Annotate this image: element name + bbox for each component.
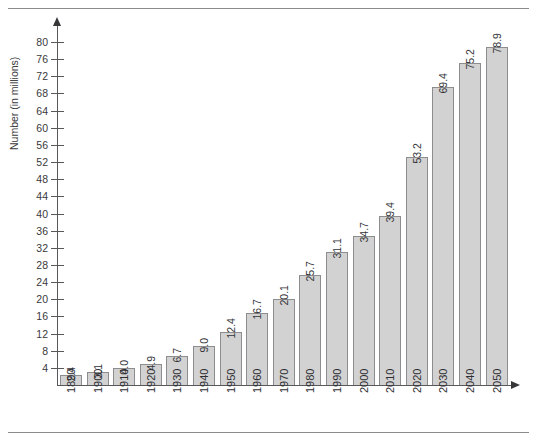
y-axis-tick-mark <box>51 59 64 60</box>
y-axis-tick-mark <box>51 282 64 283</box>
x-axis-category-label: 2030 <box>438 369 449 393</box>
y-axis-tick-label: 4 <box>8 363 48 374</box>
y-axis-tick-label: 72 <box>8 71 48 82</box>
x-axis-category-label: 2020 <box>412 369 423 393</box>
y-axis-tick-mark <box>51 42 64 43</box>
y-axis-tick-label: 76 <box>8 54 48 65</box>
y-axis-tick-mark <box>51 162 64 163</box>
x-axis-category-label: 1930 <box>172 369 183 393</box>
y-axis-tick-label: 20 <box>8 294 48 305</box>
bar <box>406 157 428 385</box>
y-axis-tick-mark <box>51 145 64 146</box>
y-axis-tick-mark <box>51 214 64 215</box>
bar-value-label: 34.7 <box>358 222 369 242</box>
page: Number (in millions) 4812162024283236404… <box>0 0 537 443</box>
y-axis-tick-mark <box>51 265 64 266</box>
bar <box>353 236 375 385</box>
y-axis-tick-label: 80 <box>8 37 48 48</box>
x-axis-category-label: 1980 <box>305 369 316 393</box>
bar-value-label: 75.2 <box>465 49 476 69</box>
y-axis-arrow-icon <box>53 17 61 26</box>
y-axis-tick-mark <box>51 93 64 94</box>
y-axis-tick-mark <box>51 368 64 369</box>
bar-value-label: 16.7 <box>252 299 263 319</box>
y-axis-tick-label: 12 <box>8 329 48 340</box>
y-axis-tick-label: 28 <box>8 260 48 271</box>
x-axis-category-label: 1890 <box>66 369 77 393</box>
y-axis-tick-label: 44 <box>8 191 48 202</box>
bar <box>459 63 481 385</box>
y-axis-tick-label: 48 <box>8 174 48 185</box>
x-axis-category-label: 2000 <box>359 369 370 393</box>
bar-value-label: 31.1 <box>332 238 343 258</box>
bar-value-label: 25.7 <box>305 261 316 281</box>
y-axis-tick-mark <box>51 351 64 352</box>
y-axis-tick-mark <box>51 179 64 180</box>
bar-value-label: 20.1 <box>278 285 289 305</box>
bar-value-label: 6.7 <box>172 348 183 363</box>
y-axis-tick-mark <box>51 111 64 112</box>
x-axis-category-label: 2040 <box>465 369 476 393</box>
bar-value-label: 69.4 <box>438 74 449 94</box>
y-axis-tick-mark <box>51 231 64 232</box>
bar <box>486 47 508 385</box>
y-axis-tick-mark <box>51 316 64 317</box>
x-axis-category-label: 1940 <box>199 369 210 393</box>
x-axis-category-label: 1970 <box>279 369 290 393</box>
x-axis-category-label: 1900 <box>93 369 104 393</box>
bar-value-label: 9.0 <box>199 338 210 353</box>
y-axis-tick-label: 24 <box>8 277 48 288</box>
y-axis-tick-mark <box>51 299 64 300</box>
y-axis-tick-label: 68 <box>8 88 48 99</box>
y-axis-tick-label: 40 <box>8 209 48 220</box>
y-axis-tick-mark <box>51 196 64 197</box>
x-axis-arrow-icon <box>511 381 520 389</box>
bar-chart: Number (in millions) 4812162024283236404… <box>0 0 537 443</box>
y-axis-tick-mark <box>51 334 64 335</box>
y-axis-tick-mark <box>51 76 64 77</box>
x-axis-category-label: 1990 <box>332 369 343 393</box>
y-axis-tick-label: 60 <box>8 123 48 134</box>
y-axis-tick-label: 36 <box>8 226 48 237</box>
bar-value-label: 53.2 <box>411 143 422 163</box>
bar <box>432 87 454 385</box>
x-axis-category-label: 1960 <box>252 369 263 393</box>
bar-value-label: 39.4 <box>385 202 396 222</box>
x-axis-category-label: 1920 <box>146 369 157 393</box>
y-axis-tick-label: 64 <box>8 106 48 117</box>
x-axis-category-label: 2050 <box>492 369 503 393</box>
bar-value-label: 78.9 <box>491 33 502 53</box>
x-axis-category-label: 2010 <box>385 369 396 393</box>
bar <box>326 252 348 385</box>
y-axis-line <box>57 24 58 385</box>
y-axis-tick-label: 8 <box>8 346 48 357</box>
y-axis-tick-label: 32 <box>8 243 48 254</box>
x-axis-category-label: 1910 <box>119 369 130 393</box>
y-axis-tick-label: 56 <box>8 140 48 151</box>
y-axis-tick-label: 52 <box>8 157 48 168</box>
bar <box>379 216 401 385</box>
y-axis-tick-label: 16 <box>8 311 48 322</box>
y-axis-tick-mark <box>51 248 64 249</box>
x-axis-category-label: 1950 <box>226 369 237 393</box>
y-axis-tick-mark <box>51 128 64 129</box>
bar-value-label: 12.4 <box>225 318 236 338</box>
